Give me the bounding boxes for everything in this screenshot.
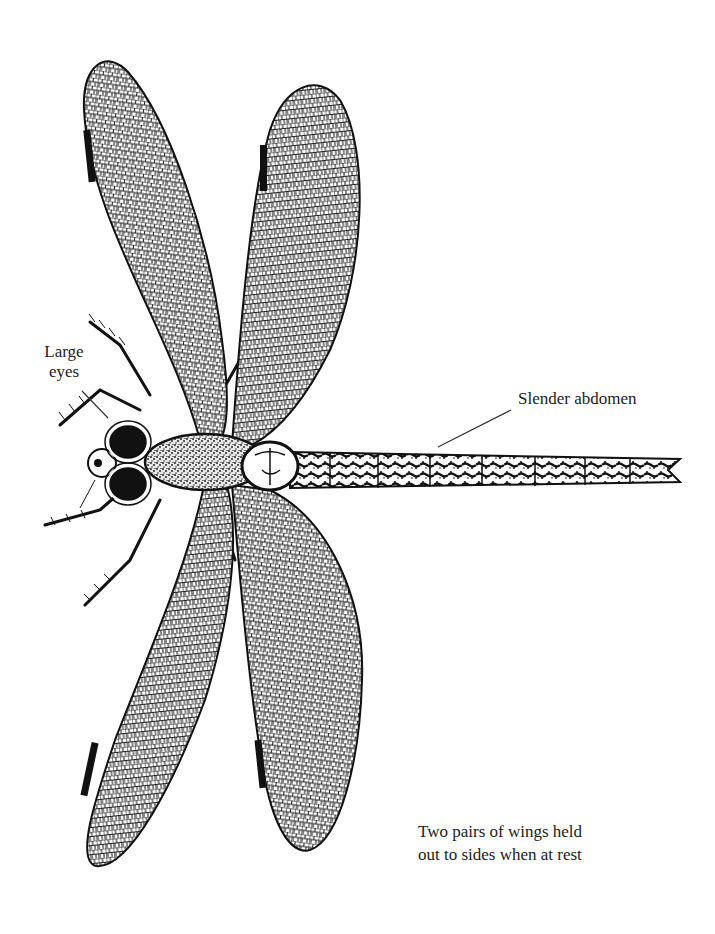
right-forewing	[232, 85, 360, 450]
eye-upper	[108, 424, 148, 460]
abdomen-leader-line	[438, 410, 511, 447]
label-large-eyes: Large eyes	[40, 342, 88, 382]
left-forewing	[84, 61, 227, 445]
label-wings-caption: Two pairs of wings held out to sides whe…	[418, 820, 582, 866]
abdomen	[290, 452, 680, 488]
dragonfly-drawing	[0, 0, 715, 934]
right-hindwing	[232, 485, 362, 851]
eye-lower	[108, 466, 148, 502]
left-hindwing	[87, 480, 233, 866]
label-slender-abdomen: Slender abdomen	[518, 389, 637, 409]
dragonfly-illustration: Large eyes Slender abdomen Two pairs of …	[0, 0, 715, 934]
